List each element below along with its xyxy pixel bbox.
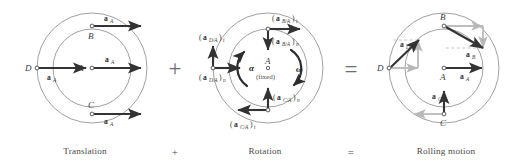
vector-sub-aD: D <box>405 44 410 50</box>
svg-text:t: t <box>254 124 256 130</box>
point-A-marker-rolling <box>442 66 446 70</box>
svg-text:n: n <box>297 97 300 103</box>
svg-text:C/A: C/A <box>240 124 249 130</box>
svg-text:n: n <box>223 77 226 83</box>
point-label-A-rolling: A <box>439 72 446 82</box>
svg-text:a: a <box>276 37 280 46</box>
panel-translation: a A B a A A a A C a A D <box>24 13 147 127</box>
svg-text:(: ( <box>199 33 202 42</box>
caption-translation: Translation <box>30 146 140 156</box>
point-label-C-rolling: C <box>440 118 447 128</box>
vector-label-aCA-n: (a C/A) n <box>273 93 300 103</box>
svg-text:D/A: D/A <box>208 37 218 43</box>
svg-text:D/A: D/A <box>208 77 218 83</box>
point-B-marker-translation <box>90 24 94 28</box>
svg-text:): ) <box>292 14 295 23</box>
alpha-symbol: α <box>249 63 255 73</box>
vector-label-aC: a <box>432 92 436 101</box>
svg-text:C/A: C/A <box>283 97 292 103</box>
vector-label-aA-at-D: a <box>47 73 51 82</box>
vector-sub-aA-rolling: A <box>465 76 470 82</box>
operator-equals-middle: = <box>339 58 363 81</box>
vector-label-aDA-t: (a D/A) t <box>199 33 225 43</box>
vector-label-aA-rolling: a <box>460 72 464 81</box>
vector-sub-aA-at-B: A <box>109 18 114 24</box>
svg-text:(: ( <box>230 120 233 129</box>
point-label-D-translation: D <box>24 63 32 73</box>
point-label-A-rotation: A <box>264 56 271 66</box>
point-C-marker-translation <box>90 112 94 116</box>
point-label-C-translation: C <box>88 100 95 110</box>
point-D-marker-rotation <box>211 66 215 70</box>
svg-text:t: t <box>223 37 225 43</box>
point-A-marker-rotation <box>266 66 269 69</box>
svg-text:a: a <box>203 33 207 42</box>
vector-label-aA-at-A: a <box>105 55 109 64</box>
vector-label-aBA-n: (a B/A) n <box>272 37 299 47</box>
vector-label-aCA-t: (a C/A) t <box>230 120 256 130</box>
svg-text:B/A: B/A <box>282 18 291 24</box>
point-D-marker-rolling <box>387 66 391 70</box>
point-B-marker-rotation <box>266 27 270 31</box>
svg-text:): ) <box>250 120 253 129</box>
vector-sub-aA-at-A: A <box>110 59 115 65</box>
svg-text:a: a <box>277 93 281 102</box>
svg-text:): ) <box>293 93 296 102</box>
operator-plus-middle: + <box>163 57 187 80</box>
svg-text:): ) <box>219 73 222 82</box>
svg-text:a: a <box>276 14 280 23</box>
svg-text:a: a <box>203 73 207 82</box>
point-A-marker-translation <box>90 66 94 70</box>
vector-label-aD: a <box>400 40 404 49</box>
panel-rotation: (a B/A) t (a B/A) n (a D/A) t (a D/A) n … <box>199 13 323 130</box>
svg-text:(: ( <box>272 14 275 23</box>
svg-text:a: a <box>234 120 238 129</box>
point-C-marker-rotation <box>266 108 270 112</box>
point-label-B-rolling: B <box>440 12 446 22</box>
caption-plus: + <box>163 146 187 158</box>
point-C-marker-rolling <box>442 112 446 116</box>
fixed-note: (fixed) <box>256 73 276 81</box>
point-D-marker-translation <box>35 66 39 70</box>
svg-text:(: ( <box>272 37 275 46</box>
caption-rotation: Rotation <box>210 146 320 156</box>
vector-aB <box>446 27 483 48</box>
vector-sub-aA-at-C: A <box>109 121 114 127</box>
vector-sub-aA-at-D: A <box>52 77 57 83</box>
svg-text:B/A: B/A <box>282 41 291 47</box>
point-label-D-rolling: D <box>376 63 384 73</box>
vector-label-aDA-n: (a D/A) n <box>199 73 226 83</box>
svg-text:t: t <box>296 18 298 24</box>
svg-text:n: n <box>296 41 299 47</box>
panel-rolling: D a D B a B A a A C a C <box>376 12 499 128</box>
point-B-marker-rolling <box>442 24 446 28</box>
svg-text:(: ( <box>199 73 202 82</box>
caption-equals: = <box>339 146 363 158</box>
rolling-motion-figure: .circ{fill:none;stroke:#8f8f8f;stroke-wi… <box>0 0 528 164</box>
vector-sub-aB: B <box>472 54 476 60</box>
point-label-B-translation: B <box>88 31 94 41</box>
vector-sub-aC: C <box>438 96 442 102</box>
caption-rolling: Rolling motion <box>386 146 506 156</box>
vector-label-aA-at-C: a <box>104 117 108 126</box>
omega-symbol: ω <box>296 64 303 74</box>
vector-label-aB: a <box>466 50 470 59</box>
vector-label-aA-at-B: a <box>104 14 108 23</box>
svg-text:): ) <box>292 37 295 46</box>
svg-text:(: ( <box>273 93 276 102</box>
svg-text:): ) <box>219 33 222 42</box>
